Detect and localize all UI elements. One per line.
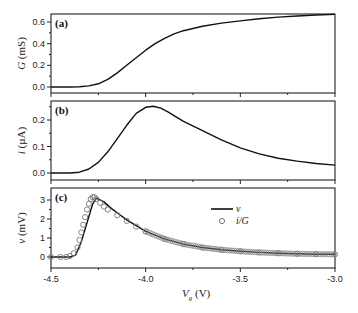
y-axis-label: v (mV) [15, 212, 28, 244]
data-point [84, 207, 89, 212]
y-tick-label: 0.1 [32, 142, 45, 152]
panel-a: 0.00.20.40.6G (mS)(a) [15, 14, 335, 97]
data-point [79, 230, 84, 235]
y-tick-label: 0.4 [32, 39, 45, 49]
legend: vi/G [211, 203, 249, 226]
data-line [51, 106, 335, 173]
plot-frame [51, 101, 335, 180]
y-tick-label: 0.6 [32, 17, 45, 27]
panel-b: 0.00.10.2i (µA)(b) [15, 101, 335, 184]
y-tick-label: 0.2 [32, 60, 45, 70]
y-tick-label: 1 [40, 233, 45, 243]
x-axis-label: Vg (V) [182, 287, 211, 302]
data-point [81, 222, 86, 227]
y-tick-label: 3 [40, 195, 45, 205]
panel-label: (c) [55, 191, 68, 204]
panel-c: 0123v (mV)(c)vi/G [15, 188, 338, 272]
panel-label: (a) [55, 17, 68, 30]
svg-text:v: v [236, 203, 241, 214]
x-tick-label: -3.5 [233, 274, 249, 284]
x-tick-labels: -4.5-4.0-3.5-3.0 [43, 274, 343, 284]
y-tick-label: 0.0 [32, 168, 45, 178]
y-tick-label: 0.2 [32, 115, 45, 125]
data-point [82, 215, 87, 220]
y-axis-label: G (mS) [15, 37, 28, 70]
plot-frame [51, 14, 335, 93]
y-tick-label: 0.0 [32, 82, 45, 92]
x-tick-label: -4.0 [138, 274, 154, 284]
svg-text:i/G: i/G [236, 215, 249, 226]
x-tick-label: -3.0 [327, 274, 343, 284]
y-tick-label: 2 [40, 214, 45, 224]
y-tick-label: 0 [40, 252, 45, 262]
data-line [51, 14, 335, 87]
figure: 0.00.20.40.6G (mS)(a)0.00.10.2i (µA)(b)0… [0, 0, 358, 313]
data-point [105, 207, 110, 212]
y-axis-label: i (µA) [15, 126, 28, 154]
x-tick-label: -4.5 [43, 274, 59, 284]
panel-label: (b) [55, 104, 69, 117]
